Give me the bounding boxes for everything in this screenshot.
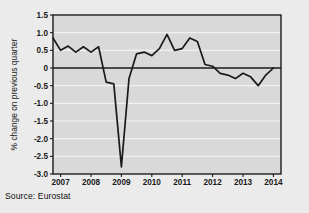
y-tick-label: 1.5: [37, 11, 49, 20]
y-tick-label: 0.5: [37, 46, 49, 55]
y-tick-label: -2.5: [34, 152, 49, 161]
plot-background: [53, 15, 281, 174]
x-tick-label: 2009: [112, 178, 131, 186]
y-tick-label: -1.0: [34, 99, 49, 108]
y-tick-label: -3.0: [34, 170, 49, 179]
source-note: Source: Eurostat: [5, 191, 71, 201]
y-tick-label: 0: [43, 64, 48, 73]
x-tick-label: 2014: [264, 178, 283, 186]
line-chart: 1.51.00.50-0.5-1.0-1.5-2.0-2.5-3.0 20072…: [0, 0, 309, 186]
chart-figure: 1.51.00.50-0.5-1.0-1.5-2.0-2.5-3.0 20072…: [0, 0, 309, 213]
x-tick-label: 2011: [173, 178, 191, 186]
y-tick-label: -2.0: [34, 135, 49, 144]
y-axis-title: % change on previous quarter: [9, 38, 19, 150]
y-tick-label: -0.5: [34, 82, 49, 91]
x-tick-label: 2010: [143, 178, 162, 186]
plot-area-wrapper: 1.51.00.50-0.5-1.0-1.5-2.0-2.5-3.0 20072…: [0, 0, 309, 186]
y-tick-label: -1.5: [34, 117, 49, 126]
y-tick-label: 1.0: [37, 29, 49, 38]
x-tick-label: 2012: [203, 178, 222, 186]
x-tick-label: 2007: [51, 178, 70, 186]
x-tick-label: 2013: [234, 178, 253, 186]
chart-card: 1.51.00.50-0.5-1.0-1.5-2.0-2.5-3.0 20072…: [0, 0, 309, 186]
x-tick-label: 2008: [82, 178, 101, 186]
